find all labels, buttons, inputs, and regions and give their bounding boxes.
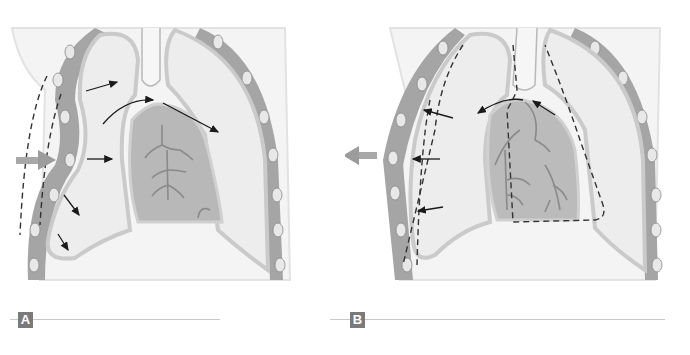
outward-pressure-arrow-icon <box>345 146 377 165</box>
caption-row-a: A <box>0 312 300 328</box>
caption-row-b: B <box>330 312 670 328</box>
caption-divider-a <box>10 319 220 320</box>
panel-label-a: A <box>18 312 33 328</box>
caption-divider-b <box>330 319 665 320</box>
thorax-illustration-b <box>345 0 690 300</box>
panel-a-diagram <box>0 0 345 300</box>
panel-label-b: B <box>350 312 365 328</box>
panel-b-diagram <box>345 0 690 300</box>
thorax-illustration-a <box>0 0 345 300</box>
